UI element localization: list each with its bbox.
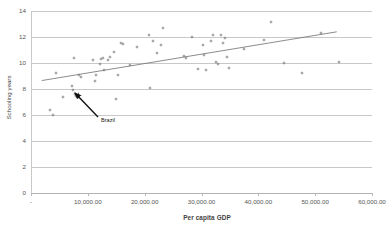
data-point — [79, 75, 83, 79]
data-point — [98, 62, 102, 66]
trendline — [31, 11, 372, 193]
x-axis-tick-mark — [88, 193, 89, 196]
data-point — [147, 33, 151, 37]
data-point — [128, 63, 132, 67]
data-point — [101, 56, 105, 60]
gridline — [31, 141, 372, 142]
data-point — [216, 62, 220, 66]
data-point — [102, 68, 106, 72]
data-point — [282, 61, 286, 65]
data-point — [108, 55, 112, 59]
data-point — [221, 41, 225, 45]
data-point — [112, 50, 116, 54]
x-axis-tick-mark — [202, 193, 203, 196]
data-point — [337, 60, 341, 64]
data-point — [54, 71, 58, 75]
data-point — [262, 38, 266, 42]
x-axis-tick-label: 60,000.00 — [342, 199, 392, 205]
data-point — [135, 45, 139, 49]
data-point — [151, 39, 155, 43]
data-point — [223, 36, 227, 40]
x-axis-tick-mark — [315, 193, 316, 196]
data-point — [161, 26, 165, 30]
data-point — [190, 35, 194, 39]
data-point — [91, 58, 95, 62]
data-point — [114, 97, 118, 101]
gridline — [31, 167, 372, 168]
x-axis-tick-mark — [31, 193, 32, 196]
data-point — [51, 113, 55, 117]
y-axis-tick-label: 0 — [4, 190, 26, 196]
data-point — [72, 56, 76, 60]
x-axis-title: Per capita GDP — [42, 214, 372, 221]
data-point — [209, 39, 213, 43]
data-point — [300, 71, 304, 75]
data-point — [319, 31, 323, 35]
x-axis-tick-label: 30,000.00 — [172, 199, 232, 205]
y-axis-tick-label: 14 — [4, 8, 26, 14]
y-axis-tick-label: 8 — [4, 86, 26, 92]
data-point — [242, 47, 246, 51]
data-point — [204, 68, 208, 72]
gridline — [31, 115, 372, 116]
y-axis-tick-label: 10 — [4, 60, 26, 66]
data-point — [155, 51, 159, 55]
x-axis-tick-mark — [145, 193, 146, 196]
y-axis-tick-label: 12 — [4, 34, 26, 40]
y-axis-tick-label: 6 — [4, 112, 26, 118]
y-axis-tick-label: 2 — [4, 164, 26, 170]
data-point — [202, 53, 206, 57]
data-point — [227, 66, 231, 70]
data-point-highlighted — [75, 92, 82, 99]
data-point — [116, 73, 120, 77]
plot-area — [31, 11, 372, 193]
data-point — [184, 56, 188, 60]
data-point — [121, 42, 125, 46]
data-point — [94, 73, 98, 77]
data-point — [211, 33, 215, 37]
gridline — [31, 89, 372, 90]
scatter-chart: Schooling years 02468101214 -10,000.0020… — [0, 0, 392, 231]
x-axis-tick-label: 50,000.00 — [285, 199, 345, 205]
data-point — [93, 79, 97, 83]
data-point — [201, 43, 205, 47]
data-point — [225, 55, 229, 59]
data-point — [159, 43, 163, 47]
y-axis-tick-label: 4 — [4, 138, 26, 144]
gridline — [31, 11, 372, 12]
x-axis-tick-label: - — [1, 199, 61, 205]
data-point — [219, 33, 223, 37]
gridline — [31, 37, 372, 38]
data-point — [61, 95, 65, 99]
data-point — [48, 108, 52, 112]
data-point — [196, 67, 200, 71]
x-axis-tick-label: 20,000.00 — [115, 199, 175, 205]
x-axis-tick-mark — [258, 193, 259, 196]
y-axis-line — [31, 11, 32, 194]
data-point — [148, 86, 152, 90]
x-axis-tick-label: 40,000.00 — [228, 199, 288, 205]
gridline — [31, 63, 372, 64]
data-point — [269, 20, 273, 24]
x-axis-tick-mark — [372, 193, 373, 196]
x-axis-tick-label: 10,000.00 — [58, 199, 118, 205]
annotation-label-brazil: Brazil — [101, 117, 115, 123]
